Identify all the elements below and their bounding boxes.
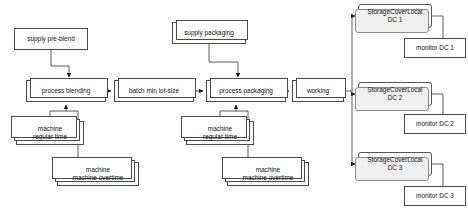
node-label: monitor DC 3 [416,192,454,200]
node-label: working [307,87,329,95]
node-label: process blending [42,87,91,95]
node-label: supply pre-blend [27,35,75,43]
node-monitor-dc-3[interactable]: monitor DC 3 [404,186,466,206]
edge-supply-packaging-to-process-packaging [209,44,238,77]
node-supply-packaging[interactable]: supply packaging [172,22,246,44]
node-working[interactable]: working [292,80,344,102]
node-label: machine regular time [203,125,237,141]
node-batch-min-lot-size[interactable]: batch min lot-size [114,80,194,102]
node-storage-cover-local-dc-2[interactable]: StorageCoverLocal DC 2 [358,82,432,106]
node-label: batch min lot-size [129,87,179,95]
edge-supply-pre-blend-to-process-blending [51,50,69,77]
node-storage-cover-local-dc-3[interactable]: StorageCoverLocal DC 3 [358,152,432,176]
node-storage-cover-local-dc-1[interactable]: StorageCoverLocal DC 1 [358,4,432,28]
node-machine-overtime-1[interactable]: machine machine overtime [57,162,139,186]
edge-dc-2-to-monitor-dc-2 [432,94,443,114]
node-machine-regular-time-1[interactable]: machine regular time [16,121,84,145]
node-monitor-dc-1[interactable]: monitor DC 1 [404,38,466,58]
node-label: machine regular time [33,125,67,141]
node-monitor-dc-2[interactable]: monitor DC 2 [404,114,466,134]
node-label: supply packaging [184,29,234,37]
node-label: monitor DC 2 [416,120,454,128]
node-label: StorageCoverLocal DC 3 [367,156,422,172]
node-machine-regular-time-2[interactable]: machine regular time [186,121,254,145]
node-supply-pre-blend[interactable]: supply pre-blend [14,28,88,50]
diagram-canvas: supply pre-blend supply packaging proces… [0,0,468,220]
node-label: StorageCoverLocal DC 1 [367,8,422,24]
node-label: process packaging [219,87,273,95]
node-label: machine machine overtime [243,166,294,182]
node-label: StorageCoverLocal DC 2 [367,86,422,102]
node-process-blending[interactable]: process blending [26,80,106,102]
node-process-packaging[interactable]: process packaging [206,80,286,102]
node-machine-overtime-2[interactable]: machine machine overtime [227,162,309,186]
edge-dc-1-to-monitor-dc-1 [432,16,443,38]
node-label: machine machine overtime [73,166,124,182]
edge-dc-3-to-monitor-dc-3 [432,164,443,186]
node-label: monitor DC 1 [416,44,454,52]
